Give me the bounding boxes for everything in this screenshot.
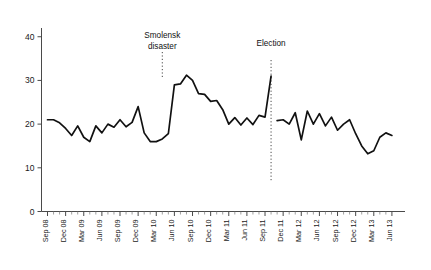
annotation-label-smolensk-disaster: Smolensk — [144, 31, 181, 40]
x-tick-label: Dec 12 — [349, 220, 358, 243]
y-tick-label: 40 — [25, 32, 35, 42]
line-chart: 010203040 Sep 08Dec 08Mar 09Jun 09Sep 09… — [0, 0, 431, 270]
x-tick-label: Sep 12 — [331, 219, 340, 242]
annotation-label2-smolensk-disaster: disaster — [148, 42, 177, 51]
x-tick-label: Sep 11 — [258, 220, 267, 242]
x-tick-label: Sep 10 — [186, 219, 195, 242]
x-tick-label: Jun 12 — [312, 220, 321, 242]
x-tick-label: Dec 09 — [131, 220, 140, 243]
event-annotations: SmolenskdisasterElection — [144, 31, 286, 182]
x-tick-label: Mar 10 — [149, 220, 158, 242]
y-tick-label: 0 — [30, 207, 35, 217]
x-tick-label: Dec 10 — [204, 220, 213, 243]
x-tick-label: Sep 08 — [41, 219, 50, 242]
data-series-group — [48, 75, 392, 154]
series-support-line — [48, 75, 392, 154]
y-tick-label: 30 — [25, 75, 35, 85]
x-tick-label: Jun 09 — [95, 220, 104, 242]
chart-container: 010203040 Sep 08Dec 08Mar 09Jun 09Sep 09… — [0, 0, 431, 270]
x-tick-label: Jun 13 — [385, 220, 394, 242]
x-tick-label: Mar 11 — [222, 220, 231, 242]
x-tick-label: Mar 12 — [294, 220, 303, 242]
x-tick-label: Mar 09 — [77, 220, 86, 242]
y-tick-label: 10 — [25, 163, 35, 173]
y-tick-label: 20 — [25, 119, 35, 129]
x-tick-label: Dec 11 — [276, 220, 285, 242]
annotation-label-election: Election — [256, 39, 286, 48]
x-axis-tick-labels: Sep 08Dec 08Mar 09Jun 09Sep 09Dec 09Mar … — [41, 219, 394, 242]
y-axis-ticks: 010203040 — [25, 32, 41, 217]
x-tick-label: Jun 11 — [240, 219, 249, 240]
x-tick-label: Jun 10 — [167, 220, 176, 242]
x-tick-label: Sep 09 — [113, 219, 122, 242]
x-tick-label: Dec 08 — [59, 220, 68, 243]
x-axis-ticks — [48, 212, 392, 217]
x-tick-label: Mar 13 — [367, 220, 376, 242]
